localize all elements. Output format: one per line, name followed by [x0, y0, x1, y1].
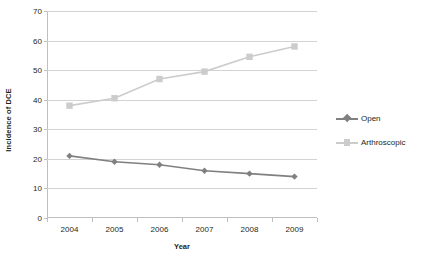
y-tick-label: 20 [33, 154, 42, 163]
data-point [291, 173, 297, 179]
x-tick-label: 2009 [286, 225, 304, 234]
series-line [70, 156, 295, 177]
x-tick-mark [47, 218, 48, 222]
y-tick-label: 60 [33, 36, 42, 45]
data-point [66, 102, 72, 108]
y-tick-label: 40 [33, 95, 42, 104]
x-tick-label: 2004 [61, 225, 79, 234]
x-tick-label: 2006 [151, 225, 169, 234]
legend-key [336, 114, 358, 123]
x-axis-title: Year [47, 242, 317, 251]
x-tick-label: 2008 [241, 225, 259, 234]
data-point [156, 162, 162, 168]
line-chart: Incidence of DCE 010203040506070 2004200… [0, 0, 427, 259]
y-axis-title: Incidence of DCE [4, 60, 13, 180]
data-point [111, 159, 117, 165]
y-tick-label: 70 [33, 7, 42, 16]
legend-item-arthroscopic[interactable]: Arthroscopic [336, 136, 405, 149]
series-arthroscopic [66, 43, 297, 109]
data-point [66, 153, 72, 159]
series-open [66, 153, 297, 180]
y-tick-label: 50 [33, 66, 42, 75]
chart-legend: OpenArthroscopic [336, 112, 405, 160]
legend-label: Open [361, 114, 381, 123]
data-point [111, 95, 117, 101]
y-tick-label: 30 [33, 125, 42, 134]
data-series-layer [47, 11, 317, 218]
x-tick-mark [182, 218, 183, 222]
data-point [246, 54, 252, 60]
x-tick-mark [272, 218, 273, 222]
plot-area: 010203040506070 200420052006200720082009 [47, 11, 317, 218]
data-point [156, 76, 162, 82]
data-point [246, 170, 252, 176]
x-tick-label: 2007 [196, 225, 214, 234]
x-tick-mark [317, 218, 318, 222]
x-tick-mark [92, 218, 93, 222]
data-point [291, 43, 297, 49]
legend-item-open[interactable]: Open [336, 112, 405, 125]
x-tick-mark [227, 218, 228, 222]
data-point [201, 68, 207, 74]
diamond-marker-icon [342, 114, 351, 123]
legend-key [336, 138, 358, 147]
y-tick-label: 10 [33, 184, 42, 193]
series-line [70, 46, 295, 105]
x-tick-label: 2005 [106, 225, 124, 234]
legend-label: Arthroscopic [361, 138, 405, 147]
data-point [201, 167, 207, 173]
y-tick-label: 0 [38, 214, 42, 223]
x-tick-mark [137, 218, 138, 222]
square-marker-icon [344, 139, 350, 145]
